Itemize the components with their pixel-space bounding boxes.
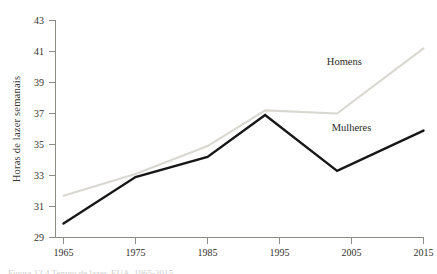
x-tick-label: 2005 [342,247,362,258]
y-axis-tick-labels: 43 41 39 37 35 33 31 29 [34,15,44,243]
y-tick-label: 31 [34,201,44,212]
y-tick-label: 41 [34,46,44,57]
y-tick-label: 35 [34,139,44,150]
y-tick-label: 33 [34,170,44,181]
x-axis-tick-labels: 1965 1975 1985 1995 2005 2015 [54,247,434,258]
leisure-hours-line-chart: 43 41 39 37 35 33 31 29 1965 1975 1985 1… [0,0,437,274]
x-tick-label: 1975 [126,247,146,258]
x-axis-ticks [64,238,424,245]
x-tick-label: 1985 [198,247,218,258]
x-tick-label: 2015 [414,247,434,258]
series-label-homens: Homens [327,56,362,67]
figure-caption: Figura 12.4 Tempo de lazer, EUA, 1965-20… [8,267,308,274]
x-tick-label: 1965 [54,247,74,258]
y-tick-label: 29 [34,232,44,243]
chart-container: 43 41 39 37 35 33 31 29 1965 1975 1985 1… [0,0,437,274]
x-tick-label: 1995 [270,247,290,258]
y-axis-ticks [49,21,56,238]
y-tick-label: 43 [34,15,44,26]
y-tick-label: 39 [34,77,44,88]
y-axis-title: Horas de lazer semanais [11,76,22,182]
series-label-mulheres: Mulheres [332,122,372,133]
y-tick-label: 37 [34,108,44,119]
